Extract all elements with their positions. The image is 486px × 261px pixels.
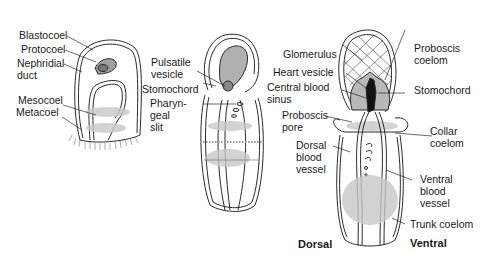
- label-pharyngeal-slit-line1: Pharyn-: [150, 98, 187, 109]
- label-ventral-orientation: Ventral: [410, 238, 447, 249]
- label-dorsal-blood-vessel-line2: blood: [296, 152, 322, 163]
- label-nephridial-duct-line1: Nephridial: [17, 58, 64, 69]
- label-pharyngeal-slit-line3: slit: [150, 122, 163, 133]
- label-ventral-blood-vessel-line1: Ventral: [420, 174, 453, 185]
- label-pulsatile-vesicle-line2: vesicle: [151, 69, 183, 80]
- label-dorsal-blood-vessel-line3: vessel: [296, 164, 326, 175]
- label-metacoel: Metacoel: [16, 107, 59, 118]
- label-central-blood-sinus-line2: sinus: [267, 94, 292, 105]
- label-mesocoel: Mesocoel: [18, 95, 63, 106]
- label-stomochord-juvenile: Stomochord: [414, 85, 471, 96]
- label-stomochord-larva: Stomochord: [142, 84, 199, 95]
- label-glomerulus: Glomerulus: [283, 49, 337, 60]
- label-dorsal-blood-vessel-line1: Dorsal: [296, 140, 326, 151]
- label-dorsal-orientation: Dorsal: [298, 239, 332, 250]
- label-proboscis-coelom-line1: Proboscis: [414, 43, 460, 54]
- label-ventral-blood-vessel-line3: vessel: [420, 198, 450, 209]
- label-pharyngeal-slit-line2: geal: [150, 110, 170, 121]
- late-larva-drawing: [200, 34, 263, 211]
- label-blastocoel: Blastocoel: [19, 30, 67, 41]
- label-nephridial-duct-line2: duct: [17, 70, 37, 81]
- label-heart-vesicle: Heart vesicle: [273, 67, 334, 78]
- label-collar-coelom-line1: Collar: [430, 126, 457, 137]
- label-trunk-coelom: Trunk coelom: [410, 219, 473, 230]
- label-proboscis-pore-line1: Proboscis: [282, 110, 328, 121]
- label-collar-coelom-line2: coelom: [430, 138, 464, 149]
- juvenile-drawing: [334, 30, 408, 246]
- label-proboscis-pore-line2: pore: [282, 122, 303, 133]
- label-pulsatile-vesicle-line1: Pulsatile: [151, 57, 191, 68]
- label-central-blood-sinus-line1: Central blood: [267, 82, 329, 93]
- label-protocoel: Protocoel: [21, 44, 65, 55]
- early-larva-drawing: [69, 40, 141, 150]
- label-proboscis-coelom-line2: coelom: [414, 55, 448, 66]
- label-ventral-blood-vessel-line2: blood: [420, 186, 446, 197]
